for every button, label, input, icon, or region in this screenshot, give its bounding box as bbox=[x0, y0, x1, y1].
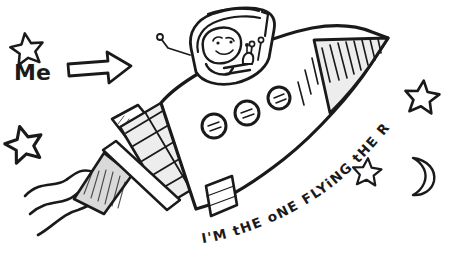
doodle-canvas: Me I'M tHE oNE FLYiNG tHE ROCKET ! bbox=[0, 0, 452, 276]
rocket-doodle-illustration: Me I'M tHE oNE FLYiNG tHE ROCKET ! bbox=[0, 0, 452, 276]
